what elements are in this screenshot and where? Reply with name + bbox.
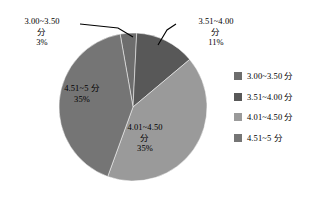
pie-graphic <box>58 32 208 182</box>
legend-swatch-icon <box>234 113 242 121</box>
slice-label-range-text: 4.51~5 分 <box>44 83 120 94</box>
legend-item-label: 4.51~5 分 <box>247 133 283 143</box>
slice-label-percent-text: 35% <box>105 143 185 154</box>
legend-item-label: 3.00~3.50 分 <box>247 71 294 81</box>
callout-range-text: 3.00~3.50 <box>4 16 80 27</box>
legend-swatch-icon <box>234 134 242 142</box>
legend-item-4-01-4-50: 4.01~4.50 分 <box>234 107 320 128</box>
slice-callout-3-51-4-00: 3.51~4.00 分 11% <box>176 16 256 48</box>
legend-swatch-icon <box>234 93 242 101</box>
callout-percent-text: 11% <box>176 37 256 48</box>
legend-item-label: 3.51~4.00 分 <box>247 92 294 102</box>
slice-label-4-51-5: 4.51~5 分 35% <box>44 83 120 104</box>
slice-label-4-01-4-50: 4.01~4.50 分 35% <box>105 122 185 154</box>
callout-unit-text: 分 <box>4 27 80 38</box>
legend-item-4-51-5: 4.51~5 分 <box>234 128 320 149</box>
slice-callout-3-00-3-50: 3.00~3.50 分 3% <box>4 16 80 48</box>
callout-range-text: 3.51~4.00 <box>176 16 256 27</box>
pie-svg <box>58 32 208 182</box>
slice-label-range-text: 4.01~4.50 <box>105 122 185 133</box>
chart-legend: 3.00~3.50 分 3.51~4.00 分 4.01~4.50 分 4.51… <box>234 66 320 148</box>
legend-swatch-icon <box>234 72 242 80</box>
slice-label-percent-text: 35% <box>44 94 120 105</box>
legend-item-3-00-3-50: 3.00~3.50 分 <box>234 66 320 87</box>
legend-item-3-51-4-00: 3.51~4.00 分 <box>234 87 320 108</box>
slice-label-unit-text: 分 <box>105 133 185 144</box>
legend-item-label: 4.01~4.50 分 <box>247 112 294 122</box>
pie-chart: 3.00~3.50 分 3% 3.51~4.00 分 11% 4.51~5 分 … <box>0 0 321 204</box>
callout-percent-text: 3% <box>4 37 80 48</box>
callout-unit-text: 分 <box>176 27 256 38</box>
